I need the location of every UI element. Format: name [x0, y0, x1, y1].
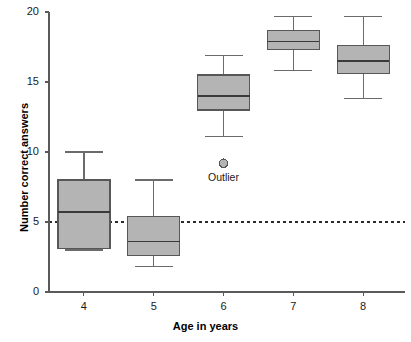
y-axis-title: Number correct answers — [18, 103, 30, 232]
box-age-5[interactable] — [128, 216, 180, 255]
x-tick-label-6: 6 — [209, 300, 239, 312]
outlier-point-age-6[interactable] — [219, 159, 227, 167]
y-tick-label-5: 5 — [13, 215, 39, 227]
y-tick-label-20: 20 — [13, 5, 39, 17]
box-plot-figure: Number correct answers Age in years 0510… — [0, 0, 411, 342]
box-age-8[interactable] — [337, 46, 389, 74]
y-tick-label-0: 0 — [13, 285, 39, 297]
y-tick-label-10: 10 — [13, 145, 39, 157]
x-tick-label-7: 7 — [278, 300, 308, 312]
x-axis-title: Age in years — [0, 320, 411, 332]
box-age-7[interactable] — [267, 30, 319, 50]
box-age-6[interactable] — [198, 75, 250, 110]
box-age-4[interactable] — [58, 180, 110, 249]
x-tick-label-4: 4 — [69, 300, 99, 312]
x-tick-label-5: 5 — [139, 300, 169, 312]
y-tick-label-15: 15 — [13, 75, 39, 87]
x-tick-label-8: 8 — [348, 300, 378, 312]
outlier-annotation-label: Outlier — [184, 171, 264, 183]
